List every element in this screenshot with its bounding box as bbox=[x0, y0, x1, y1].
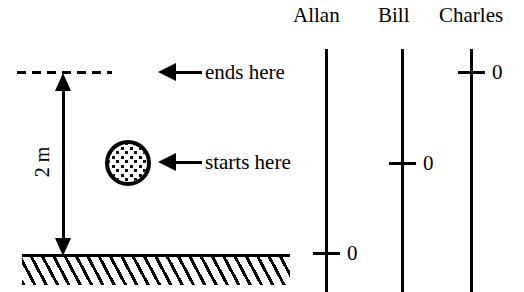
figure-canvas: 2 m ends here starts here Allan 0 Bill 0… bbox=[0, 0, 524, 292]
ground-hatching bbox=[22, 257, 290, 285]
axis-allan bbox=[325, 49, 328, 292]
ends-here-arrow-shaft bbox=[175, 71, 202, 74]
observer-name-charles: Charles bbox=[439, 3, 503, 27]
axis-zero-label-allan: 0 bbox=[347, 242, 358, 264]
observer-name-allan: Allan bbox=[293, 3, 340, 27]
starts-here-arrow-shaft bbox=[175, 161, 202, 164]
axis-zero-label-charles: 0 bbox=[492, 61, 503, 83]
axis-tick-charles bbox=[458, 71, 485, 74]
dimension-arrow-shaft bbox=[62, 80, 65, 250]
observer-name-bill: Bill bbox=[378, 3, 410, 27]
axis-tick-bill bbox=[389, 162, 416, 165]
axis-charles bbox=[470, 49, 473, 292]
ball-speckle-texture bbox=[109, 144, 147, 182]
height-label: 2 m bbox=[30, 134, 54, 190]
starts-here-label: starts here bbox=[205, 150, 291, 174]
axis-tick-allan bbox=[313, 252, 340, 255]
ends-here-arrow-icon bbox=[158, 63, 176, 81]
ends-here-label: ends here bbox=[205, 60, 285, 84]
starts-here-arrow-icon bbox=[158, 153, 176, 171]
ball bbox=[105, 140, 151, 186]
axis-bill bbox=[401, 49, 404, 292]
axis-zero-label-bill: 0 bbox=[423, 152, 434, 174]
